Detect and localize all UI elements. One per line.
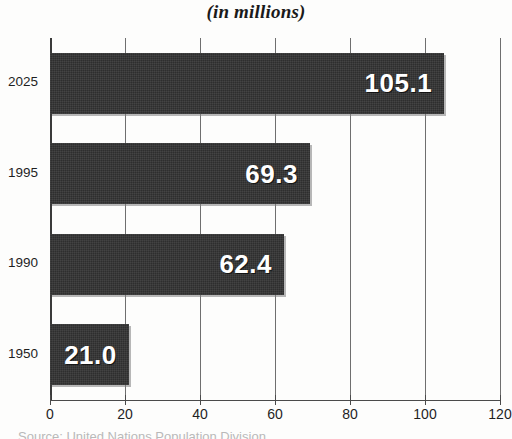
x-tick-80	[350, 395, 351, 405]
x-tick-label-60: 60	[245, 406, 305, 423]
x-tick-label-20: 20	[95, 406, 155, 423]
plot-area: 105.1202569.3199562.4199021.01950	[50, 38, 500, 400]
x-tick-label-0: 0	[20, 406, 80, 423]
bar-1950: 21.0	[50, 324, 129, 385]
category-label-1990: 1990	[0, 256, 38, 270]
category-label-1950: 1950	[0, 347, 38, 361]
category-label-2025: 2025	[0, 75, 38, 89]
x-tick-120	[500, 395, 501, 405]
bar-chart: (in millions) 105.1202569.3199562.419902…	[0, 0, 512, 439]
x-tick-40	[200, 395, 201, 405]
bar-1995: 69.3	[50, 143, 310, 204]
x-tick-20	[125, 395, 126, 405]
chart-title: (in millions)	[0, 0, 512, 24]
x-tick-label-100: 100	[395, 406, 455, 423]
source-caption: Source: United Nations Population Divisi…	[18, 429, 498, 439]
x-tick-60	[275, 395, 276, 405]
bar-value-label: 21.0	[64, 342, 117, 368]
bar-1990: 62.4	[50, 234, 284, 295]
gridline-120	[500, 38, 501, 400]
x-tick-label-40: 40	[170, 406, 230, 423]
bar-2025: 105.1	[50, 53, 444, 114]
bar-value-label: 69.3	[245, 161, 298, 187]
bar-value-label: 105.1	[365, 70, 433, 96]
x-tick-100	[425, 395, 426, 405]
x-tick-label-120: 120	[470, 406, 512, 423]
category-label-1995: 1995	[0, 166, 38, 180]
x-tick-label-80: 80	[320, 406, 380, 423]
bar-value-label: 62.4	[219, 251, 272, 277]
x-tick-0	[50, 395, 51, 405]
